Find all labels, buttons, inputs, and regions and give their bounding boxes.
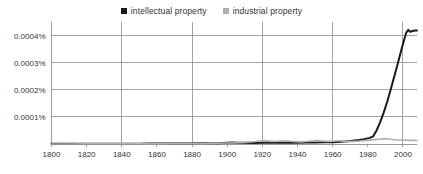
svg-text:2000: 2000 (394, 150, 412, 159)
svg-text:1860: 1860 (148, 150, 166, 159)
chart-plot-area: 0.0001%0.0002%0.0003%0.0004% 18001820184… (0, 0, 423, 174)
svg-text:1960: 1960 (324, 150, 342, 159)
y-gridlines (52, 36, 418, 117)
svg-text:1940: 1940 (289, 150, 307, 159)
y-tick-labels: 0.0001%0.0002%0.0003%0.0004% (14, 32, 46, 122)
svg-text:1840: 1840 (113, 150, 131, 159)
svg-text:1820: 1820 (78, 150, 96, 159)
x-gridlines (122, 22, 403, 144)
svg-text:0.0003%: 0.0003% (14, 59, 46, 68)
svg-text:0.0001%: 0.0001% (14, 113, 46, 122)
svg-text:0.0004%: 0.0004% (14, 32, 46, 41)
x-tick-labels: 1800182018401860188019001920194019601980… (43, 144, 413, 159)
svg-text:1980: 1980 (359, 150, 377, 159)
series-lines (52, 30, 418, 144)
svg-text:0.0002%: 0.0002% (14, 86, 46, 95)
svg-text:1800: 1800 (43, 150, 61, 159)
ngram-chart: intellectual property industrial propert… (0, 0, 423, 174)
svg-text:1880: 1880 (183, 150, 201, 159)
svg-text:1920: 1920 (253, 150, 271, 159)
svg-text:1900: 1900 (218, 150, 236, 159)
